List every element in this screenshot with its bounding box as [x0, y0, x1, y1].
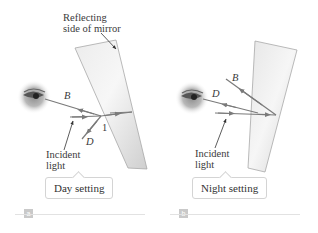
wedge-mirror [248, 41, 297, 172]
caption-day-setting: Day setting [45, 177, 113, 199]
panel-rule-a [15, 214, 145, 215]
ray-label-1: 1 [102, 122, 107, 133]
eye-icon [17, 80, 51, 114]
ray-label-d: D [86, 136, 94, 147]
mirror-annotation: Reflecting side of mirror [63, 12, 121, 34]
ray-label-b: B [232, 72, 238, 83]
panel-rule-b [170, 214, 300, 215]
incident-label-line1: Incident [46, 149, 80, 160]
eye-icon [175, 81, 209, 115]
incident-label: Incident light [46, 149, 80, 171]
mirror-annotation-line2: side of mirror [63, 23, 121, 34]
incident-pointer [215, 119, 226, 148]
panel-b [175, 41, 297, 172]
ray-label-b: B [64, 90, 70, 101]
incident-label: Incident light [195, 148, 229, 170]
incident-label-line2: light [46, 160, 80, 171]
incident-label-line2: light [195, 159, 229, 170]
panel-a [17, 33, 147, 169]
mirror-annotation-line1: Reflecting [63, 12, 121, 23]
ray-label-d: D [212, 88, 220, 99]
wedge-mirror [75, 40, 147, 169]
caption-night-setting: Night setting [192, 177, 267, 199]
incident-pointer [64, 121, 73, 150]
incident-label-line1: Incident [195, 148, 229, 159]
